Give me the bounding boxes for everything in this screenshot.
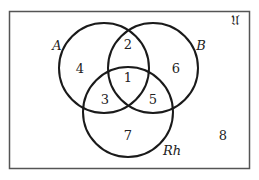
region-none: 8 [219,128,227,143]
region-b-only: 6 [172,61,180,76]
universe-label: 𝔘 [231,13,240,28]
region-a-b-only: 2 [124,37,132,52]
region-a-b-rh: 1 [124,70,132,85]
region-rh-only: 7 [124,128,132,143]
set-label-b: B [195,38,206,53]
universe-frame [10,12,250,169]
region-b-rh-only: 5 [149,92,157,107]
set-label-rh: Rh [162,143,181,158]
set-label-a: A [51,38,61,53]
region-a-rh-only: 3 [101,92,109,107]
region-a-only: 4 [76,61,84,76]
venn-diagram: 𝔘 A B Rh 1 2 3 4 5 6 7 8 [0,0,259,180]
